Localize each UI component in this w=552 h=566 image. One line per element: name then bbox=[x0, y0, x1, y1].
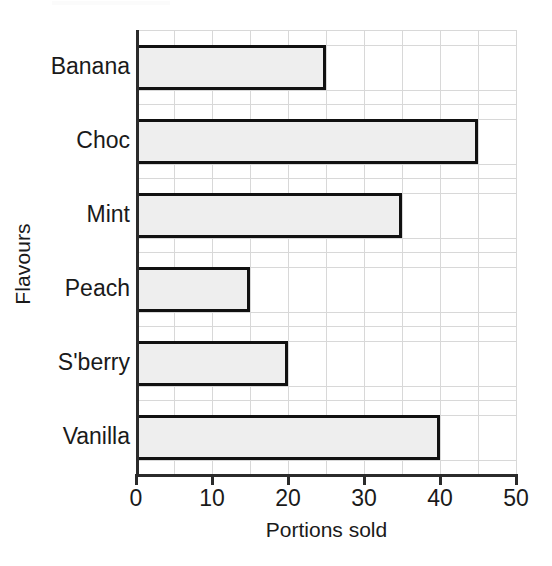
y-axis-line bbox=[136, 30, 139, 477]
horizontal-gridline bbox=[136, 326, 516, 327]
horizontal-gridline bbox=[136, 178, 516, 179]
x-axis-tick bbox=[135, 474, 138, 485]
category-label-peach: Peach bbox=[10, 277, 130, 300]
vertical-gridline bbox=[478, 30, 479, 474]
bar-chart: Flavours Banana Choc Mint Peach S'berry … bbox=[0, 0, 552, 566]
category-label-sberry: S'berry bbox=[10, 351, 130, 374]
x-axis-tick bbox=[439, 474, 442, 485]
x-axis-tick bbox=[287, 474, 290, 485]
horizontal-gridline bbox=[136, 252, 516, 253]
x-axis-tick bbox=[515, 474, 518, 485]
vertical-gridline bbox=[250, 30, 251, 474]
category-label-banana: Banana bbox=[10, 55, 130, 78]
scan-artifact bbox=[52, 1, 170, 5]
x-axis-tick bbox=[363, 474, 366, 485]
horizontal-gridline bbox=[136, 238, 516, 239]
bar-mint bbox=[136, 193, 402, 238]
category-label-choc: Choc bbox=[10, 129, 130, 152]
vertical-gridline bbox=[440, 30, 441, 474]
x-axis-tick-label: 30 bbox=[334, 487, 394, 510]
category-axis-labels: Banana Choc Mint Peach S'berry Vanilla bbox=[8, 30, 130, 474]
horizontal-gridline bbox=[136, 460, 516, 461]
vertical-gridline bbox=[364, 30, 365, 474]
x-axis-line bbox=[136, 474, 517, 477]
bar-peach bbox=[136, 267, 250, 312]
horizontal-gridline bbox=[136, 30, 516, 31]
vertical-gridline bbox=[174, 30, 175, 474]
gridlines bbox=[136, 30, 516, 474]
bar-choc bbox=[136, 119, 478, 164]
bar-vanilla bbox=[136, 415, 440, 460]
plot-area bbox=[136, 30, 516, 474]
x-axis-tick-label: 10 bbox=[182, 487, 242, 510]
horizontal-gridline bbox=[136, 400, 516, 401]
bar-banana bbox=[136, 45, 326, 90]
vertical-gridline bbox=[212, 30, 213, 474]
horizontal-gridline bbox=[136, 386, 516, 387]
vertical-gridline bbox=[326, 30, 327, 474]
vertical-gridline bbox=[288, 30, 289, 474]
x-axis-title: Portions sold bbox=[136, 518, 517, 542]
horizontal-gridline bbox=[136, 90, 516, 91]
x-axis-tick-label: 20 bbox=[258, 487, 318, 510]
category-label-vanilla: Vanilla bbox=[10, 425, 130, 448]
vertical-gridline bbox=[516, 30, 517, 474]
category-label-mint: Mint bbox=[10, 203, 130, 226]
x-axis-tick bbox=[211, 474, 214, 485]
vertical-gridline bbox=[402, 30, 403, 474]
x-axis-tick-label: 50 bbox=[486, 487, 546, 510]
horizontal-gridline bbox=[136, 104, 516, 105]
bar-sberry bbox=[136, 341, 288, 386]
horizontal-gridline bbox=[136, 164, 516, 165]
x-axis-tick-label: 40 bbox=[410, 487, 470, 510]
x-axis-tick-label: 0 bbox=[106, 487, 166, 510]
horizontal-gridline bbox=[136, 312, 516, 313]
